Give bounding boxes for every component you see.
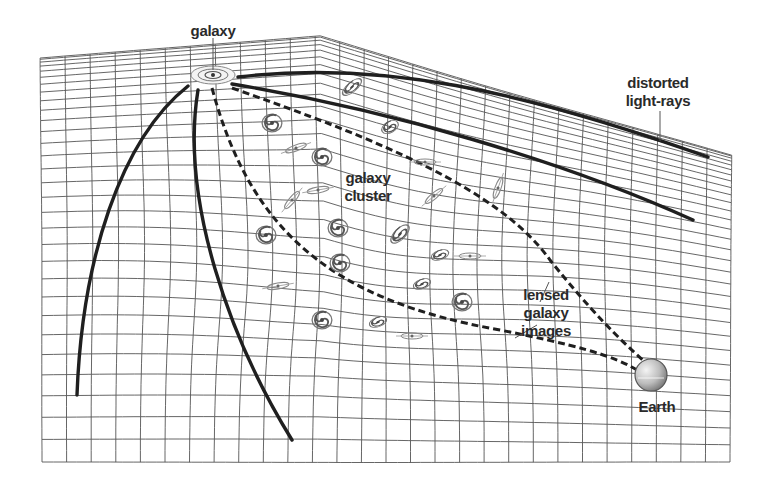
light-ray-lower-right xyxy=(232,84,693,220)
grid-line xyxy=(681,141,683,462)
grid-line xyxy=(40,58,42,462)
grid-line xyxy=(630,127,633,462)
grid-line xyxy=(165,48,171,462)
grid-line xyxy=(579,114,584,463)
edge-on-galaxy-icon xyxy=(454,253,486,259)
earth-label: Earth xyxy=(639,398,676,415)
cluster-galaxy-icon xyxy=(312,148,332,166)
grid-line xyxy=(553,107,559,462)
cluster-galaxy-icon xyxy=(312,311,332,329)
source-galaxy-label: galaxy xyxy=(191,22,237,39)
edge-on-galaxy-icon xyxy=(396,333,428,339)
grid-line xyxy=(527,100,534,462)
cluster-galaxy-icon xyxy=(388,222,412,246)
grid-line xyxy=(115,52,118,462)
cluster-galaxy-icon xyxy=(328,219,348,237)
grid-line xyxy=(214,44,223,462)
galaxy-cluster-label-line2: cluster xyxy=(344,187,392,204)
grid-line xyxy=(730,155,732,462)
cluster-galaxy-icon xyxy=(262,114,282,132)
gravitational-lensing-diagram: galaxy distorted light-rays galaxy clust… xyxy=(0,0,773,498)
grid-line xyxy=(288,38,297,462)
distorted-light-rays-label-line1: distorted xyxy=(627,74,689,91)
grid-line xyxy=(605,120,609,462)
earth-icon xyxy=(635,359,667,391)
grid-line xyxy=(239,42,248,462)
galaxy-cluster-label-line1: galaxy xyxy=(346,169,392,186)
grid-line xyxy=(705,148,707,462)
lensed-images-label-line1: lensed xyxy=(523,286,569,303)
light-ray-far-left xyxy=(77,86,188,395)
edge-on-galaxy-icon xyxy=(262,280,295,291)
cluster-galaxy-icon xyxy=(430,247,450,262)
lensed-images-label-line2: galaxy xyxy=(524,304,570,321)
grid-line xyxy=(65,56,67,462)
grid-line xyxy=(42,278,731,323)
lensed-images-label-line3: images xyxy=(521,322,571,339)
grid-line xyxy=(140,50,144,462)
cluster-galaxy-icon xyxy=(452,293,472,311)
grid-line xyxy=(42,244,731,297)
grid-line xyxy=(90,54,93,462)
edge-on-galaxy-icon xyxy=(280,140,312,157)
distorted-light-rays-label-line2: light-rays xyxy=(626,92,691,109)
